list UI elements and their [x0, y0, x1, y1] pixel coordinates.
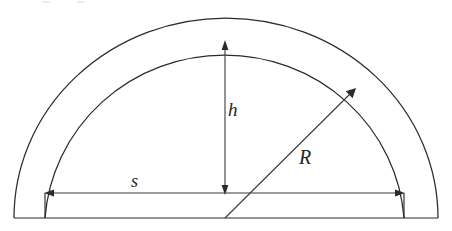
scan-artifact-speck — [42, 1, 50, 3]
radius-label: R — [299, 147, 311, 167]
arch-diagram-canvas — [0, 0, 452, 231]
height-arrow-head-top — [222, 40, 229, 50]
height-label: h — [228, 100, 238, 119]
scan-artifact-speck — [77, 1, 84, 3]
arch-diagram: h s R — [0, 0, 452, 231]
radius-dimension-line — [225, 92, 352, 218]
span-label: s — [131, 172, 138, 190]
